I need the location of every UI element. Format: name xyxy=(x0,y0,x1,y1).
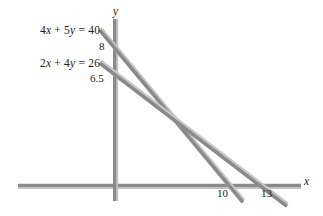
equation-2-plus: + xyxy=(51,57,64,69)
equation-label-line-2: 2x + 4y = 26 xyxy=(40,58,100,70)
equation-2-eq: = xyxy=(75,57,88,69)
equation-label-line-1: 4x + 5y = 40 xyxy=(40,25,100,37)
y-tick-label-8: 8 xyxy=(99,41,105,52)
equation-1-c: 40 xyxy=(88,24,100,36)
x-tick-label-10: 10 xyxy=(217,188,228,199)
x-axis-label: x xyxy=(304,176,309,188)
graph-figure: 4x + 5y = 40 2x + 4y = 26 8 6.5 10 13 y … xyxy=(0,0,323,216)
equation-1-eq: = xyxy=(75,24,88,36)
equation-2-c: 26 xyxy=(88,57,100,69)
y-tick-label-6-5: 6.5 xyxy=(90,73,104,84)
equation-1-plus: + xyxy=(51,24,64,36)
x-tick-label-13: 13 xyxy=(261,188,272,199)
y-axis-label: y xyxy=(113,6,118,18)
